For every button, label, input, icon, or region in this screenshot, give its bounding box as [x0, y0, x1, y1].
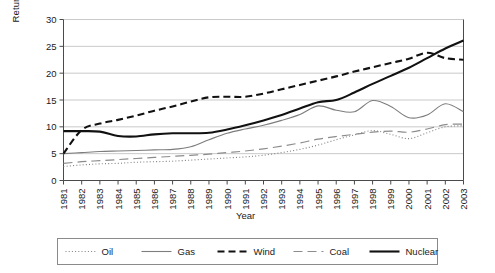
x-tick-label: 1999 — [385, 189, 396, 210]
legend-label-gas: Gas — [178, 246, 196, 257]
x-tick-label: 1998 — [367, 189, 378, 210]
series-line-coal — [64, 124, 464, 163]
y-axis-ticks: 051015202530 — [46, 14, 64, 186]
chart-legend: OilGasWindCoalNuclear — [58, 239, 439, 265]
series-line-wind — [64, 53, 464, 154]
y-tick-label: 25 — [46, 41, 57, 52]
x-tick-label: 1997 — [349, 189, 360, 210]
x-axis-title: Year — [236, 210, 255, 221]
legend-label-coal: Coal — [330, 246, 350, 257]
x-tick-label: 1986 — [149, 189, 160, 210]
x-tick-label: 1990 — [222, 189, 233, 210]
y-tick-label: 0 — [51, 175, 56, 186]
data-series-group — [64, 40, 464, 166]
series-line-nuclear — [64, 40, 464, 136]
x-tick-label: 1987 — [167, 189, 178, 210]
x-tick-label: 1981 — [58, 189, 69, 210]
y-tick-label: 15 — [46, 95, 57, 106]
y-axis-title: Returns (kWh/US $) — [10, 0, 24, 44]
x-tick-label: 1989 — [203, 189, 214, 210]
x-tick-label: 1988 — [185, 189, 196, 210]
y-tick-label: 30 — [46, 14, 57, 25]
x-tick-label: 1982 — [76, 189, 87, 210]
x-tick-label: 2000 — [403, 189, 414, 210]
legend-label-wind: Wind — [254, 246, 276, 257]
line-chart: Returns (kWh/US $) Year 051015202530 198… — [0, 0, 495, 273]
x-axis-ticks: 1981198219831984198519861987198819891990… — [58, 181, 469, 210]
gridlines — [64, 20, 464, 154]
x-tick-label: 2001 — [422, 189, 433, 210]
x-tick-label: 1991 — [240, 189, 251, 210]
chart-canvas: 051015202530 198119821983198419851986198… — [0, 0, 495, 273]
x-tick-label: 1985 — [131, 189, 142, 210]
x-tick-label: 1996 — [331, 189, 342, 210]
legend-label-nuclear: Nuclear — [406, 246, 439, 257]
x-tick-label: 1993 — [276, 189, 287, 210]
y-tick-label: 20 — [46, 68, 57, 79]
x-tick-label: 1983 — [94, 189, 105, 210]
x-tick-label: 2003 — [458, 189, 469, 210]
x-tick-label: 1984 — [113, 189, 124, 210]
legend-label-oil: Oil — [102, 246, 114, 257]
y-tick-label: 5 — [51, 148, 56, 159]
x-tick-label: 2002 — [440, 189, 451, 210]
x-tick-label: 1995 — [313, 189, 324, 210]
y-tick-label: 10 — [46, 121, 57, 132]
x-tick-label: 1994 — [294, 189, 305, 210]
x-tick-label: 1992 — [258, 189, 269, 210]
